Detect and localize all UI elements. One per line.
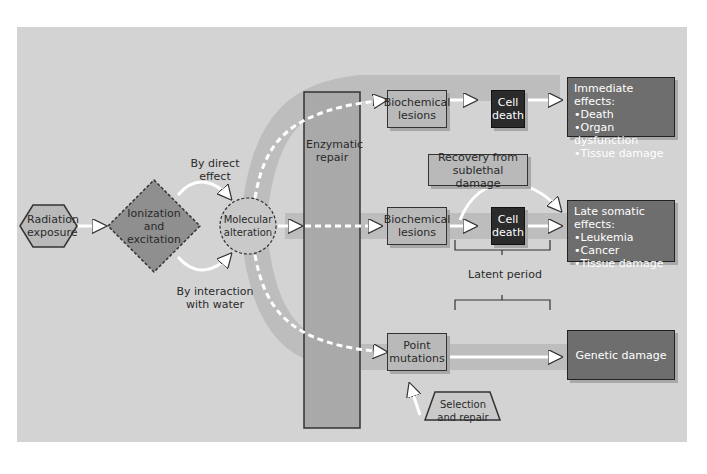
- immediate-effect-item: Death: [574, 108, 668, 121]
- late-effects-title: Late somatic effects:: [574, 205, 668, 231]
- late-effect-item: Leukemia: [574, 231, 668, 244]
- recovery-node: Recovery from sublethal damage: [428, 154, 528, 186]
- immediate-effects-box: Immediate effects: Death Organ dysfuncti…: [567, 77, 675, 137]
- edge-label-water: By interaction with water: [170, 285, 260, 311]
- late-effect-item: Tissue damage: [574, 257, 668, 270]
- biochemical-lesions-mid: Biochemical lesions: [387, 207, 447, 245]
- cell-death-mid: Cell death: [491, 207, 525, 245]
- biochemical-lesions-top: Biochemical lesions: [387, 90, 447, 128]
- late-effects-box: Late somatic effects: Leukemia Cancer Ti…: [567, 200, 675, 262]
- cell-death-top: Cell death: [491, 90, 525, 128]
- ionization-label: Ionization and excitation: [120, 207, 188, 246]
- immediate-effects-title: Immediate effects:: [574, 82, 668, 108]
- genetic-damage-box: Genetic damage: [567, 330, 675, 380]
- latent-period-label: Latent period: [460, 268, 550, 281]
- edge-label-direct: By direct effect: [180, 157, 250, 183]
- point-mutations: Point mutations: [387, 333, 447, 371]
- molecular-alteration-label: Molecular alteration: [222, 213, 274, 239]
- immediate-effect-item: Tissue damage: [574, 147, 668, 160]
- radiation-exposure-label: Radiation exposure: [27, 213, 71, 239]
- selection-repair-label: Selection and repair: [432, 398, 494, 424]
- late-effect-item: Cancer: [574, 244, 668, 257]
- immediate-effect-item: Organ dysfunction: [574, 121, 668, 147]
- enzymatic-repair-label: Enzymatic repair: [306, 138, 358, 164]
